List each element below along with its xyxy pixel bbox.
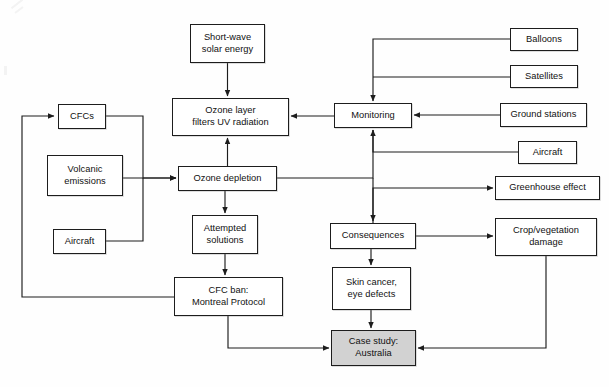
node-case-study-australia[interactable]: Case study: Australia [331, 330, 416, 366]
node-label-satellites: Satellites [525, 71, 563, 83]
node-volcanic-emissions[interactable]: Volcanic emissions [47, 155, 123, 196]
node-label-short-wave-solar-energy: Short-wave solar energy [202, 32, 253, 55]
node-ozone-layer-filters-uv-radiation[interactable]: Ozone layer filters UV radiation [172, 98, 289, 136]
node-label-ozone-depletion: Ozone depletion [193, 173, 261, 185]
connector-ozone-depletion-to-monitoring [277, 130, 373, 178]
node-label-monitoring: Monitoring [351, 110, 395, 122]
node-balloons[interactable]: Balloons [510, 28, 578, 51]
node-monitoring[interactable]: Monitoring [334, 103, 412, 128]
flow-diagram: Short-wave solar energyOzone layer filte… [0, 0, 609, 387]
node-label-greenhouse-effect: Greenhouse effect [509, 182, 586, 194]
connector-aircraft-monitoring-to-monitoring [373, 130, 518, 152]
node-label-consequences: Consequences [342, 230, 404, 242]
node-label-balloons: Balloons [526, 34, 562, 46]
node-satellites[interactable]: Satellites [510, 65, 578, 88]
node-crop-vegetation-damage[interactable]: Crop/vegetation damage [495, 218, 597, 256]
node-skin-cancer-eye-defects[interactable]: Skin cancer, eye defects [332, 267, 411, 310]
connector-balloons-to-monitoring [373, 39, 510, 101]
node-label-volcanic-emissions: Volcanic emissions [64, 164, 106, 187]
scan-artifact-smudge [14, 6, 23, 14]
node-label-crop-vegetation-damage: Crop/vegetation damage [513, 225, 579, 248]
node-label-aircraft-monitoring: Aircraft [533, 147, 563, 159]
node-aircraft-source[interactable]: Aircraft [53, 229, 106, 254]
node-ground-stations[interactable]: Ground stations [500, 103, 587, 127]
scan-artifact-smudge [11, 0, 23, 9]
scan-artifact-smudge [4, 66, 7, 75]
node-label-case-study-australia: Case study: Australia [349, 336, 398, 359]
node-cfc-ban-montreal-protocol[interactable]: CFC ban: Montreal Protocol [174, 277, 283, 316]
node-label-ground-stations: Ground stations [511, 109, 577, 121]
node-ozone-depletion[interactable]: Ozone depletion [178, 166, 277, 191]
connector-cfc-ban-to-cfcs-feedback [22, 116, 174, 297]
node-label-cfc-ban-montreal-protocol: CFC ban: Montreal Protocol [192, 285, 265, 308]
connector-crop-damage-to-case-study [418, 256, 546, 348]
node-short-wave-solar-energy[interactable]: Short-wave solar energy [190, 24, 265, 63]
node-greenhouse-effect[interactable]: Greenhouse effect [495, 176, 600, 200]
node-aircraft-monitoring[interactable]: Aircraft [518, 141, 577, 164]
node-label-cfcs: CFCs [70, 111, 94, 123]
node-label-attempted-solutions: Attempted solutions [204, 223, 247, 246]
node-attempted-solutions[interactable]: Attempted solutions [192, 215, 258, 254]
node-label-aircraft-source: Aircraft [65, 236, 95, 248]
node-label-skin-cancer-eye-defects: Skin cancer, eye defects [346, 277, 397, 300]
node-consequences[interactable]: Consequences [330, 223, 416, 249]
connector-consequences-to-greenhouse-effect [373, 188, 493, 223]
node-cfcs[interactable]: CFCs [58, 104, 106, 129]
node-label-ozone-layer-filters-uv-radiation: Ozone layer filters UV radiation [192, 105, 268, 128]
connector-cfc-ban-to-case-study [228, 316, 329, 348]
